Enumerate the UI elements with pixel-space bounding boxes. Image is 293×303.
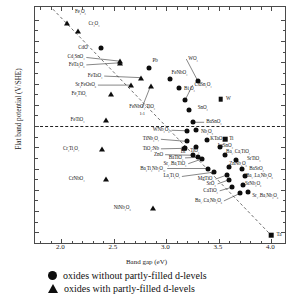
legend-item-circle: oxides without partly-filled d-levels — [48, 270, 293, 281]
data-point-label: Fe₂O₃ — [75, 9, 86, 15]
data-point-label: CrNbO₄ — [69, 176, 85, 182]
legend-item-triangle: oxides with partly-filled d-levels — [48, 283, 293, 294]
y-axis-tick — [35, 52, 38, 53]
data-point-label: WNb₂O₆ — [153, 127, 170, 133]
y-axis-tick — [35, 20, 39, 21]
data-point — [150, 206, 156, 211]
x-axis-tick — [156, 7, 157, 10]
data-point — [205, 138, 210, 143]
y-axis-title: Flat band potential (V/SHE) — [15, 49, 23, 169]
data-point — [190, 153, 195, 158]
x-axis-tick — [145, 7, 146, 10]
x-axis-tick — [114, 7, 115, 11]
data-point-label: Bi₂O₃ — [184, 86, 195, 92]
x-axis-tick — [229, 7, 230, 10]
x-axis-tick — [135, 7, 136, 10]
data-point-label: ZnNb₂O₆ — [229, 161, 246, 167]
y-axis-tick — [35, 137, 38, 138]
y-axis-tick — [35, 84, 39, 85]
data-point — [211, 170, 216, 175]
data-point — [103, 118, 109, 123]
y-axis-tick — [281, 62, 285, 63]
data-point — [239, 167, 244, 172]
data-point-label: FeTaO₄ — [88, 73, 102, 79]
x-axis-tick — [61, 7, 62, 11]
data-point-label: CdSn₂O₄ — [195, 82, 212, 88]
y-axis-tick — [35, 41, 39, 42]
data-point — [185, 139, 190, 144]
y-axis-tick — [35, 115, 38, 116]
x-axis-tick-label: 2.0 — [45, 243, 75, 251]
data-point — [199, 156, 204, 161]
label-leader-line — [161, 139, 187, 141]
data-point — [103, 176, 109, 181]
y-axis-tick — [283, 73, 286, 74]
x-axis-title: Band gap (eV) — [0, 258, 293, 266]
y-axis-tick — [281, 147, 285, 148]
y-axis-tick — [283, 94, 286, 95]
x-axis-tick — [250, 7, 251, 10]
data-point — [75, 29, 81, 34]
data-point — [147, 65, 152, 70]
data-point — [183, 97, 188, 102]
data-point-label: SrTiO₃ — [247, 156, 260, 162]
data-point — [187, 107, 192, 112]
y-axis-tick — [35, 158, 38, 159]
data-point-label: Ti — [229, 136, 233, 141]
y-axis-tick — [35, 105, 39, 106]
x-axis-tick — [219, 7, 220, 11]
data-point-label: Ba₁₋CaₓNb₂O₆ — [195, 198, 222, 204]
data-point — [108, 92, 114, 97]
x-axis-tick — [240, 7, 241, 10]
data-point-label: NiNb₂O₆ — [114, 205, 131, 211]
data-point — [185, 128, 190, 133]
x-axis-tick — [198, 241, 199, 244]
y-axis-tick — [35, 94, 38, 95]
x-axis-tick — [166, 7, 167, 11]
label-leader-line — [86, 63, 120, 65]
x-axis-tick — [261, 7, 262, 10]
y-axis-tick — [35, 126, 39, 127]
data-point-label: Pb — [153, 58, 158, 63]
data-point — [246, 189, 251, 194]
data-point — [138, 75, 144, 80]
data-point — [190, 120, 195, 125]
x-axis-tick-label: 3.0 — [150, 243, 180, 251]
data-point-label: Nb₂O₅ — [201, 129, 213, 135]
y-axis-tick — [281, 41, 285, 42]
data-point — [99, 45, 104, 50]
y-axis-tick — [281, 20, 285, 21]
data-point-label: Ba₁₋LaₓNb₂O₆ — [246, 173, 273, 179]
label-leader-line — [104, 76, 141, 78]
data-point — [237, 191, 242, 196]
data-point — [117, 60, 123, 65]
y-axis-tick — [283, 137, 286, 138]
x-axis-tick-label: 4.0 — [255, 243, 285, 251]
data-point-label: SnO₂ — [198, 105, 208, 111]
y-axis-tick — [35, 169, 39, 170]
data-point-label: BaSnO₃ — [206, 119, 221, 125]
data-point-label: BaSrO₃ — [249, 166, 264, 172]
y-axis-tick — [283, 158, 286, 159]
x-axis-tick — [187, 241, 188, 244]
circle-marker-icon — [48, 271, 57, 280]
y-axis-tick — [35, 232, 39, 233]
y-axis-tick — [35, 200, 38, 201]
y-axis-tick — [35, 222, 38, 223]
data-point-label: W — [226, 96, 231, 101]
data-point-label: CdO — [78, 45, 87, 50]
y-axis-tick — [283, 200, 286, 201]
x-axis-tick-label: 2.5 — [98, 243, 128, 251]
data-point-label: ZnO — [154, 152, 163, 157]
data-point — [99, 146, 105, 151]
legend: oxides without partly-filled d-levels ox… — [0, 270, 293, 296]
y-axis-tick — [281, 190, 285, 191]
x-axis-tick — [250, 241, 251, 244]
y-axis-tick — [281, 126, 285, 127]
x-axis-tick — [82, 7, 83, 10]
y-axis-tick — [283, 52, 286, 53]
y-axis-tick — [35, 179, 38, 180]
data-point — [193, 127, 198, 132]
y-axis-tick — [281, 232, 285, 233]
data-point — [230, 185, 235, 190]
